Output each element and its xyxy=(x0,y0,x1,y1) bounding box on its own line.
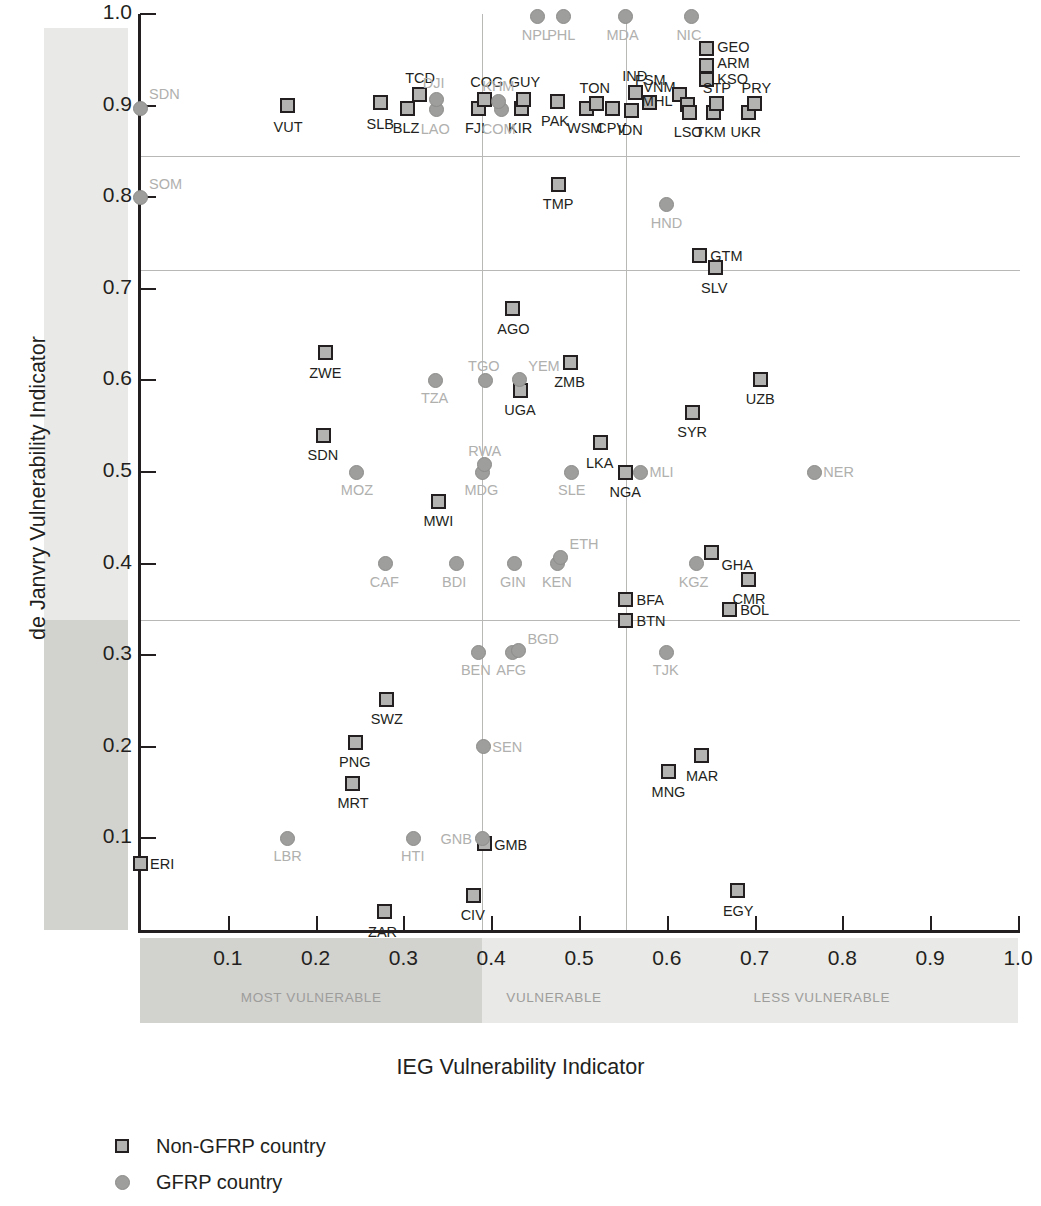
square-marker-icon xyxy=(699,58,714,73)
square-marker-icon xyxy=(379,692,394,707)
data-point-label: MWI xyxy=(424,514,454,529)
data-point-label: SLV xyxy=(701,281,727,296)
circle-marker-icon xyxy=(280,831,295,846)
square-marker-icon xyxy=(741,572,756,587)
x-tick-label: 1.0 xyxy=(997,946,1039,970)
data-point-label: ZWE xyxy=(309,366,341,381)
circle-marker-icon xyxy=(684,9,699,24)
y-tick xyxy=(140,13,156,15)
data-point-label: ETH xyxy=(570,537,599,552)
x-axis-title: IEG Vulnerability Indicator xyxy=(0,1055,1041,1080)
circle-marker-icon xyxy=(478,373,493,388)
data-point-label: TZA xyxy=(421,391,448,406)
square-marker-icon xyxy=(593,435,608,450)
square-marker-icon xyxy=(112,1136,138,1156)
circle-marker-icon xyxy=(429,92,444,107)
square-marker-icon xyxy=(685,405,700,420)
h-reference-line-0 xyxy=(140,156,1020,157)
data-point-label: UGA xyxy=(504,403,535,418)
data-point-label: BGD xyxy=(527,632,558,647)
circle-marker-icon xyxy=(349,465,364,480)
y-axis-line xyxy=(138,14,141,933)
y-tick-label: 0.9 xyxy=(82,92,132,116)
data-point-label: ERI xyxy=(150,857,174,872)
square-marker-icon xyxy=(377,904,392,919)
circle-marker-icon xyxy=(133,190,148,205)
data-point-label: KGZ xyxy=(679,575,709,590)
circle-marker-icon xyxy=(618,9,633,24)
x-band-label: MOST VULNERABLE xyxy=(140,990,482,1005)
data-point-label: DJI xyxy=(423,76,445,91)
data-point-label: ZAR xyxy=(368,925,397,940)
legend-label: GFRP country xyxy=(138,1171,282,1194)
data-point-label: UZB xyxy=(746,392,775,407)
square-marker-icon xyxy=(624,103,639,118)
data-point-label: PAK xyxy=(541,114,569,129)
circle-marker-icon xyxy=(807,465,822,480)
y-band-0 xyxy=(44,28,128,271)
y-axis-title: de Janvry Vulnerability Indicator xyxy=(26,336,51,640)
data-point-label: BDI xyxy=(442,575,466,590)
data-point-label: SLE xyxy=(558,483,585,498)
y-tick-label: 0.3 xyxy=(82,641,132,665)
x-tick-label: 0.7 xyxy=(734,946,776,970)
y-tick-label: 0.2 xyxy=(82,733,132,757)
data-point-label: MDG xyxy=(464,483,498,498)
circle-marker-icon xyxy=(378,556,393,571)
data-point-label: HND xyxy=(651,216,682,231)
data-point-label: IDN xyxy=(618,123,643,138)
square-marker-icon xyxy=(318,345,333,360)
data-point-label: ZMB xyxy=(554,375,585,390)
data-point-label: SEN xyxy=(492,740,522,755)
x-tick-label: 0.3 xyxy=(382,946,424,970)
square-marker-icon xyxy=(348,735,363,750)
legend-item-gfrp: GFRP country xyxy=(112,1164,572,1200)
data-point-label: GEO xyxy=(717,40,749,55)
data-point-label: TKM xyxy=(695,125,726,140)
square-marker-icon xyxy=(516,92,531,107)
data-point-label: LAO xyxy=(421,122,450,137)
square-marker-icon xyxy=(589,96,604,111)
data-point-label: AFG xyxy=(496,663,526,678)
y-band-2 xyxy=(44,620,128,930)
square-marker-icon xyxy=(692,248,707,263)
circle-marker-icon xyxy=(556,9,571,24)
data-point-label: KEN xyxy=(542,575,572,590)
data-point-label: TMP xyxy=(543,197,574,212)
data-point-label: STP xyxy=(703,81,731,96)
square-marker-icon xyxy=(551,177,566,192)
data-point-label: UKR xyxy=(730,125,761,140)
data-point-label: CAF xyxy=(370,575,399,590)
x-tick-label: 0.5 xyxy=(558,946,600,970)
square-marker-icon xyxy=(753,372,768,387)
data-point-label: ARM xyxy=(717,56,749,71)
square-marker-icon xyxy=(316,428,331,443)
data-point-label: MOZ xyxy=(341,483,373,498)
x-tick-label: 0.2 xyxy=(295,946,337,970)
y-tick-label: 0.1 xyxy=(82,824,132,848)
x-tick xyxy=(667,916,669,930)
data-point-label: NIC xyxy=(676,28,701,43)
x-tick xyxy=(1018,916,1020,930)
square-marker-icon xyxy=(722,602,737,617)
data-point-label: SLB xyxy=(367,117,394,132)
circle-marker-icon xyxy=(659,197,674,212)
data-point-label: EGY xyxy=(723,904,754,919)
y-tick xyxy=(140,563,156,565)
x-tick xyxy=(228,916,230,930)
data-point-label: NGA xyxy=(610,485,641,500)
data-point-label: RWA xyxy=(468,444,501,459)
circle-marker-icon xyxy=(477,457,492,472)
square-marker-icon xyxy=(709,96,724,111)
square-marker-icon xyxy=(550,94,565,109)
data-point-label: SYR xyxy=(677,425,707,440)
data-point-label: GMB xyxy=(494,838,527,853)
circle-marker-icon xyxy=(564,465,579,480)
circle-marker-icon xyxy=(530,9,545,24)
x-tick xyxy=(930,916,932,930)
x-tick xyxy=(403,916,405,930)
h-reference-line-1 xyxy=(140,270,1020,271)
h-reference-line-2 xyxy=(140,620,1020,621)
x-tick xyxy=(316,916,318,930)
data-point-label: BEN xyxy=(461,663,491,678)
